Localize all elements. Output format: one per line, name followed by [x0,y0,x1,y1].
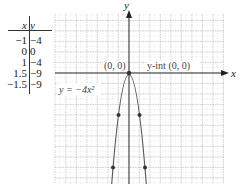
x-axis-label: x [230,67,236,79]
point [117,113,121,117]
y-axis-label: y [123,0,129,11]
point [138,113,142,117]
coordinate-graph: x y (0, 0) y-int (0, 0) y = −4x² [0,0,242,184]
vertex-label: (0, 0) [104,60,126,72]
equation-label: y = −4x² [58,84,95,95]
point [111,166,115,170]
x-axis-arrow-icon [221,70,229,76]
grid [55,14,224,184]
point-vertex [127,71,131,75]
y-intercept-label: y-int (0, 0) [147,60,190,72]
point [143,166,147,170]
